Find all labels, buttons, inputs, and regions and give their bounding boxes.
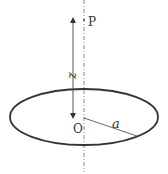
label-radius-a: a bbox=[112, 116, 120, 131]
point-p-dot bbox=[83, 19, 85, 21]
label-origin-o: O bbox=[73, 122, 83, 136]
radius-line bbox=[84, 118, 137, 136]
label-point-p: P bbox=[88, 15, 96, 29]
ring-charge-diagram: P z O a bbox=[0, 0, 168, 174]
label-height-z: z bbox=[64, 72, 79, 80]
